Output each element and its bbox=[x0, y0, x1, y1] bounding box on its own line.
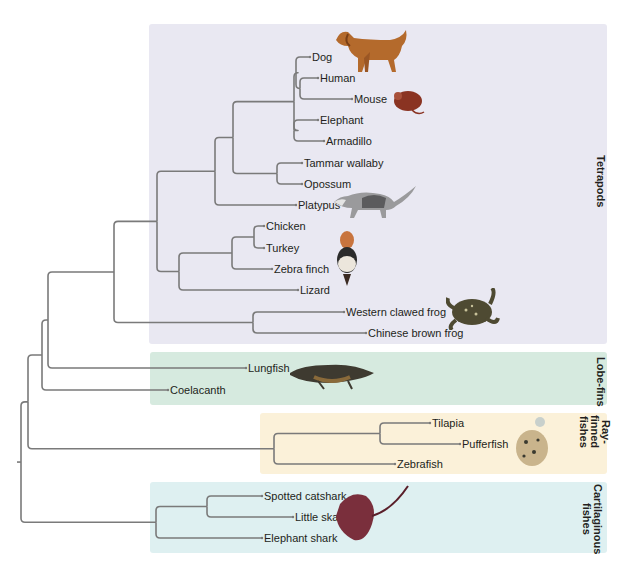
leaf-label-mouse: Mouse bbox=[354, 93, 387, 105]
branch-tilapia-puffer-to-pufferfish bbox=[380, 434, 460, 445]
opossum-illustration bbox=[332, 184, 418, 220]
leaf-tip-turkey bbox=[263, 247, 265, 249]
branch-galliformes-to-turkey bbox=[254, 237, 264, 248]
leaf-tip-cbfrog bbox=[365, 332, 367, 334]
leaf-tip-dog bbox=[309, 56, 311, 58]
branch-tilapia-puffer-to-tilapia bbox=[380, 423, 430, 434]
leaf-label-elephant: Elephant bbox=[320, 114, 363, 126]
branch-marsupials-to-wallaby bbox=[277, 163, 302, 174]
leaf-tip-pufferfish bbox=[459, 443, 461, 445]
branch-bony-to-actinopterygii bbox=[28, 402, 274, 449]
branch-chondrichthyes-to-catshark-skate bbox=[156, 507, 207, 523]
branch-tetrapods-to-frogs bbox=[114, 272, 253, 323]
leaf-label-armadillo: Armadillo bbox=[326, 135, 372, 147]
leaf-tip-catshark bbox=[261, 495, 263, 497]
branch-sarcopterygii-to-coelacanth bbox=[42, 355, 168, 390]
branch-catshark-skate-to-catshark bbox=[207, 496, 262, 507]
leaf-label-lungfish: Lungfish bbox=[248, 362, 290, 374]
branch-afro-xenarthra-to-armadillo bbox=[294, 131, 324, 142]
branch-frogs-to-cbfrog bbox=[253, 323, 366, 334]
leaf-tip-armadillo bbox=[323, 140, 325, 142]
leaf-tip-wcfrog bbox=[343, 311, 345, 313]
branch-amniotes-to-sauropsids bbox=[157, 221, 179, 271]
leaf-label-chicken: Chicken bbox=[266, 220, 306, 232]
phylogenetic-tree: DogHumanMouseElephantArmadilloTammar wal… bbox=[0, 0, 630, 566]
leaf-tip-opossum bbox=[301, 183, 303, 185]
leaf-label-lizard: Lizard bbox=[300, 284, 330, 296]
dog-illustration bbox=[330, 26, 412, 74]
branch-afro-xenarthra-to-elephant bbox=[294, 120, 318, 131]
branch-sarcopterygii-to-rhipidistia bbox=[42, 320, 48, 355]
leaf-tip-human bbox=[317, 77, 319, 79]
leaf-label-coelacanth: Coelacanth bbox=[170, 384, 226, 396]
branch-frogs-to-wcfrog bbox=[253, 312, 344, 323]
leaf-label-wallaby: Tammar wallaby bbox=[304, 157, 384, 169]
branch-marsupials-to-opossum bbox=[277, 174, 302, 185]
branch-root-to-bony bbox=[21, 402, 28, 462]
little-skate-illustration bbox=[332, 484, 412, 544]
branch-therians-to-placentals bbox=[233, 102, 294, 138]
branch-dog-group-to-dog bbox=[296, 57, 310, 73]
leaf-label-turkey: Turkey bbox=[266, 242, 300, 254]
leaf-tip-tilapia bbox=[429, 422, 431, 424]
frog-illustration bbox=[446, 288, 500, 330]
branch-sauropsids-to-birds bbox=[179, 253, 232, 272]
leaf-tip-coelacanth bbox=[167, 389, 169, 391]
branch-actinopterygii-to-tilapia-puffer bbox=[274, 434, 380, 449]
branch-root-to-chondrichthyes bbox=[21, 462, 156, 522]
leaf-tip-zebrafinch bbox=[271, 268, 273, 270]
lungfish-illustration bbox=[288, 361, 376, 391]
leaf-tip-elephantshark bbox=[261, 537, 263, 539]
branch-rhipidistia-to-lungfish bbox=[48, 320, 246, 368]
branch-human-mouse-to-mouse bbox=[300, 89, 352, 100]
branch-rhipidistia-to-tetrapods bbox=[48, 272, 114, 320]
branch-chondrichthyes-to-elephantshark bbox=[156, 522, 262, 538]
leaf-label-pufferfish: Pufferfish bbox=[462, 438, 508, 450]
leaf-tip-elephant bbox=[317, 119, 319, 121]
pufferfish-illustration bbox=[512, 416, 552, 470]
leaf-label-tilapia: Tilapia bbox=[432, 417, 465, 429]
leaf-tip-mouse bbox=[351, 98, 353, 100]
leaf-tip-wallaby bbox=[301, 162, 303, 164]
leaf-tip-lizard bbox=[297, 289, 299, 291]
branch-bony-to-sarcopterygii bbox=[28, 355, 42, 402]
leaf-label-zebrafinch: Zebra finch bbox=[274, 263, 329, 275]
branch-therians-to-marsupials bbox=[233, 138, 277, 174]
branch-tetrapods-to-amniotes bbox=[114, 221, 157, 272]
leaf-tip-lungfish bbox=[245, 367, 247, 369]
leaf-label-wcfrog: Western clawed frog bbox=[346, 306, 446, 318]
leaf-tip-chicken bbox=[263, 225, 265, 227]
branch-catshark-skate-to-skate bbox=[207, 507, 293, 518]
branch-actinopterygii-to-zebrafish bbox=[274, 449, 395, 464]
leaf-tip-platypus bbox=[295, 204, 297, 206]
leaf-tip-skate bbox=[292, 516, 294, 518]
branch-mammals-to-platypus bbox=[215, 171, 296, 205]
branch-birds-to-galliformes bbox=[232, 237, 254, 253]
leaf-tip-zebrafish bbox=[394, 463, 396, 465]
leaf-label-elephantshark: Elephant shark bbox=[264, 532, 338, 544]
mouse-illustration bbox=[390, 88, 426, 116]
leaf-label-zebrafish: Zebrafish bbox=[397, 458, 443, 470]
branch-amniotes-to-mammals bbox=[157, 171, 215, 221]
branch-galliformes-to-chicken bbox=[254, 226, 264, 237]
branch-human-mouse-to-human bbox=[300, 78, 318, 89]
zebra-finch-illustration bbox=[334, 230, 360, 286]
branch-mammals-to-therians bbox=[215, 138, 233, 172]
branch-birds-to-zebrafinch bbox=[232, 253, 272, 269]
